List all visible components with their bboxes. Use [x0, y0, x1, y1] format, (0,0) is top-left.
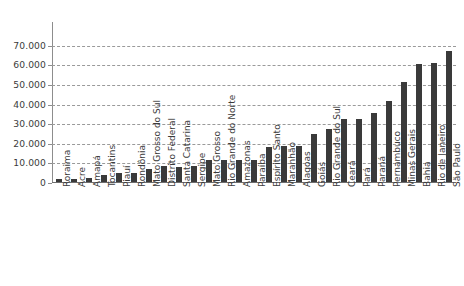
x-axis-tick-label: Paraná: [377, 156, 386, 187]
x-axis-label-slot: Espírito Santo: [262, 185, 277, 286]
x-axis-tick-label: Tocantins: [108, 145, 117, 187]
x-axis-label-slot: Pará: [351, 185, 366, 286]
x-axis-tick-label: Ceará: [347, 160, 356, 187]
x-axis-tick-label: São Paulo: [452, 143, 461, 187]
x-axis-tick-label: Minas Gerais: [407, 129, 416, 187]
x-axis-tick-label: Goiás: [318, 162, 327, 187]
x-axis-tick-label: Rio Grande do Norte: [228, 95, 237, 187]
x-axis-label-slot: Rio Grande do Sul: [321, 185, 336, 286]
x-axis-label-slot: Alagoas: [292, 185, 307, 286]
x-axis-tick-label: Alagoas: [303, 151, 312, 187]
x-axis-label-slot: Mato Grosso do Sul: [142, 185, 157, 286]
x-axis-tick-label: Piauí: [123, 166, 132, 187]
x-axis-tick-label: Sergipe: [198, 153, 207, 187]
x-axis-tick-label: Mato Grosso do Sul: [153, 100, 162, 187]
y-axis-tick-label: 40.000: [13, 100, 46, 109]
x-axis-tick-label: Roraima: [63, 150, 72, 187]
x-axis-label-slot: Mato Grosso: [202, 185, 217, 286]
x-axis-label-slot: São Paulo: [441, 185, 456, 286]
x-axis-label-slot: Roraima: [52, 185, 67, 286]
y-axis-tick-label: 30.000: [13, 120, 46, 129]
x-axis-tick-label: Distrito Federal: [168, 118, 177, 187]
x-axis-tick-label: Amapá: [93, 155, 102, 187]
x-axis-tick-label: Paraíba: [258, 154, 267, 187]
x-axis-tick-label: Mato Grosso: [213, 131, 222, 187]
x-axis-label-slot: Paraná: [366, 185, 381, 286]
x-axis-label-slot: Rio Grande do Norte: [217, 185, 232, 286]
y-axis-tick-label: 10.000: [13, 159, 46, 168]
x-axis-label-group: RoraimaAcreAmapáTocantinsPiauíRondôniaMa…: [52, 185, 456, 286]
x-axis-label-slot: Tocantins: [97, 185, 112, 286]
x-axis-tick-label: Rio de Janeiro: [437, 125, 446, 187]
x-axis-label-slot: Rio de Janeiro: [426, 185, 441, 286]
x-axis-label-slot: Piauí: [112, 185, 127, 286]
y-axis-tick-label: 0: [40, 178, 46, 187]
x-axis-tick-label: Pernambuco: [392, 131, 401, 187]
x-axis-tick-label: Rio Grande do Sul: [333, 106, 342, 187]
x-axis-tick-label: Espírito Santo: [273, 124, 282, 187]
y-axis-label-group: 010.00020.00030.00040.00050.00060.00070.…: [0, 0, 52, 286]
y-axis-tick-label: 70.000: [13, 41, 46, 50]
x-axis-label-slot: Pernambuco: [381, 185, 396, 286]
x-axis-label-slot: Minas Gerais: [396, 185, 411, 286]
y-axis-tick-label: 60.000: [13, 61, 46, 70]
x-axis-tick-label: Maranhão: [288, 142, 297, 187]
x-axis-tick-label: Acre: [78, 167, 87, 187]
bar-chart: 010.00020.00030.00040.00050.00060.00070.…: [0, 0, 464, 286]
y-axis-tick-label: 20.000: [13, 139, 46, 148]
x-axis-label-slot: Rondônia: [127, 185, 142, 286]
x-axis-tick-label: Amazonas: [243, 140, 252, 187]
x-axis-label-slot: Acre: [67, 185, 82, 286]
x-axis-label-slot: Distrito Federal: [157, 185, 172, 286]
x-axis-label-slot: Maranhão: [277, 185, 292, 286]
x-axis-label-slot: Amazonas: [232, 185, 247, 286]
x-axis-tick-label: Santa Catarina: [183, 120, 192, 187]
x-axis-label-slot: Goiás: [306, 185, 321, 286]
x-axis-label-slot: Amapá: [82, 185, 97, 286]
x-axis-tick-label: Rondônia: [138, 145, 147, 187]
y-axis-tick-label: 50.000: [13, 80, 46, 89]
x-axis-label-slot: Bahia: [411, 185, 426, 286]
x-axis-label-slot: Sergipe: [187, 185, 202, 286]
y-axis-tick-mark: [48, 183, 52, 184]
x-axis-label-slot: Paraíba: [247, 185, 262, 286]
x-axis-label-slot: Ceará: [336, 185, 351, 286]
x-axis-tick-label: Bahia: [422, 162, 431, 187]
x-axis-label-slot: Santa Catarina: [172, 185, 187, 286]
